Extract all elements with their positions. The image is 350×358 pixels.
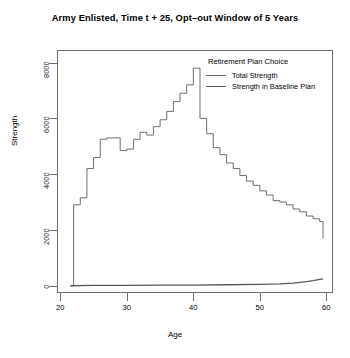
x-axis-title: Age xyxy=(0,330,350,339)
legend: Retirement Plan Choice Total Strength St… xyxy=(206,57,330,92)
legend-item-total-strength: Total Strength xyxy=(206,70,330,80)
x-tick xyxy=(193,293,194,301)
legend-swatch-icon xyxy=(206,86,226,87)
series-line-baseline-plan xyxy=(70,279,323,286)
x-tick-label: 40 xyxy=(189,303,197,312)
x-tick xyxy=(260,293,261,301)
y-axis-title: Strength xyxy=(10,116,19,146)
x-tick xyxy=(326,293,327,301)
x-tick-label: 60 xyxy=(322,303,330,312)
y-tick-label: 2000 xyxy=(42,228,51,244)
legend-item-baseline-plan: Strength in Baseline Plan xyxy=(206,81,330,91)
chart-root: Army Enlisted, Time t + 25, Opt–out Wind… xyxy=(0,0,350,358)
x-tick-label: 20 xyxy=(56,303,64,312)
y-tick-label: 4000 xyxy=(42,173,51,189)
y-axis: 02000400060008000 xyxy=(49,50,57,293)
x-tick-label: 30 xyxy=(123,303,131,312)
series-line-total-strength xyxy=(70,68,323,286)
legend-title: Retirement Plan Choice xyxy=(208,57,330,66)
chart-title: Army Enlisted, Time t + 25, Opt–out Wind… xyxy=(0,13,350,23)
legend-label: Total Strength xyxy=(232,71,278,80)
y-tick-label: 8000 xyxy=(42,61,51,77)
legend-label: Strength in Baseline Plan xyxy=(232,82,315,91)
x-tick-label: 50 xyxy=(256,303,264,312)
x-tick xyxy=(60,293,61,301)
x-tick xyxy=(127,293,128,301)
legend-swatch-icon xyxy=(206,75,226,76)
y-tick-label: 0 xyxy=(42,284,51,288)
y-tick-label: 6000 xyxy=(42,117,51,133)
x-axis: 2030405060 xyxy=(57,293,333,301)
